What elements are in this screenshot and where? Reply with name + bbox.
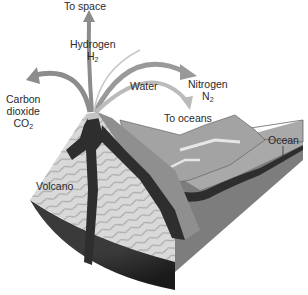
label-hydrogen: Hydrogen H2 bbox=[70, 38, 116, 64]
label-ocean: Ocean bbox=[268, 134, 299, 146]
label-dioxide: dioxide bbox=[6, 105, 40, 117]
label-nitrogen-formula: N2 bbox=[188, 90, 228, 104]
label-carbon-dioxide: Carbon dioxide CO2 bbox=[6, 93, 40, 131]
label-to-space: To space bbox=[64, 0, 106, 12]
arrow-co2 bbox=[35, 73, 90, 112]
volcano-diagram bbox=[0, 0, 308, 295]
arrow-hydrogen bbox=[89, 20, 92, 112]
label-co2-formula: CO2 bbox=[6, 117, 40, 131]
label-hydrogen-name: Hydrogen bbox=[70, 38, 116, 50]
label-volcano: Volcano bbox=[36, 180, 73, 192]
label-nitrogen: Nitrogen N2 bbox=[188, 78, 228, 104]
label-carbon: Carbon bbox=[6, 93, 40, 105]
label-nitrogen-name: Nitrogen bbox=[188, 78, 228, 90]
label-to-oceans: To oceans bbox=[164, 112, 212, 124]
arrowhead-co2 bbox=[26, 67, 40, 84]
label-hydrogen-formula: H2 bbox=[70, 50, 116, 64]
label-water: Water bbox=[130, 80, 158, 92]
